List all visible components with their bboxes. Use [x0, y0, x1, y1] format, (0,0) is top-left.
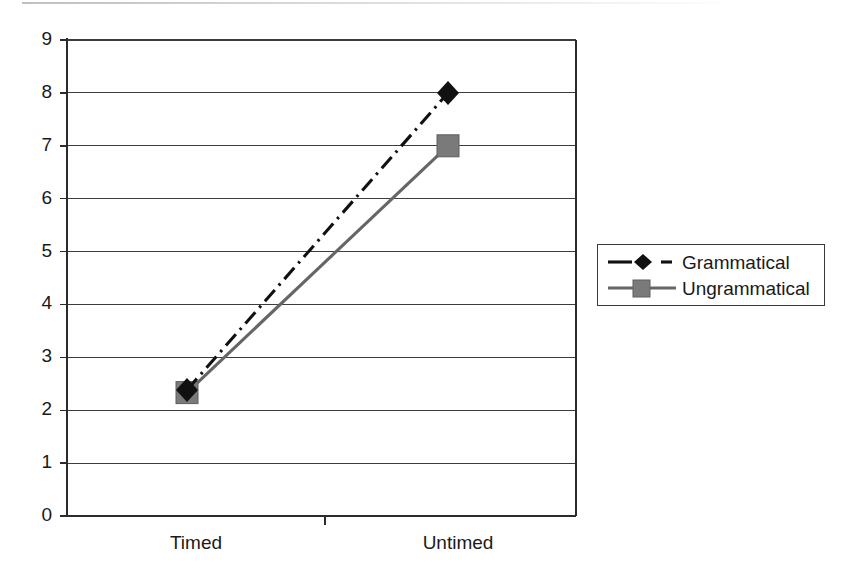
x-axis-tick-labels: Timed Untimed	[170, 532, 493, 553]
y-tick-label-9: 9	[41, 28, 52, 49]
y-tick-label-8: 8	[41, 81, 52, 102]
line-chart-figure: 9 8 7 6 5 4 3 2 1 0 Timed Untimed	[0, 0, 857, 574]
y-tick-label-1: 1	[41, 451, 52, 472]
chart-legend: Grammatical Ungrammatical	[597, 244, 825, 306]
series-line-ungrammatical	[187, 146, 448, 393]
legend-sample-grammatical	[606, 251, 680, 273]
series-grammatical	[176, 81, 459, 402]
gridlines	[67, 40, 576, 463]
legend-item-ungrammatical: Ungrammatical	[598, 275, 824, 301]
y-tick-label-2: 2	[41, 398, 52, 419]
square-marker-icon	[633, 280, 650, 297]
y-tick-marks	[60, 40, 67, 516]
data-point-ungrammatical-untimed	[437, 135, 459, 157]
legend-label-grammatical: Grammatical	[682, 253, 790, 272]
y-tick-label-4: 4	[41, 292, 52, 313]
legend-sample-ungrammatical	[606, 277, 680, 299]
diamond-marker-icon	[634, 254, 652, 270]
y-tick-label-5: 5	[41, 240, 52, 261]
legend-label-ungrammatical: Ungrammatical	[682, 279, 810, 298]
y-axis-tick-labels: 9 8 7 6 5 4 3 2 1 0	[41, 28, 52, 525]
x-tick-label-timed: Timed	[170, 532, 222, 553]
y-tick-label-7: 7	[41, 134, 52, 155]
y-tick-label-3: 3	[41, 345, 52, 366]
x-tick-label-untimed: Untimed	[423, 532, 494, 553]
series-line-grammatical	[187, 93, 448, 390]
y-tick-label-0: 0	[41, 504, 52, 525]
legend-item-grammatical: Grammatical	[598, 249, 824, 275]
series-ungrammatical	[176, 135, 459, 404]
y-tick-label-6: 6	[41, 187, 52, 208]
